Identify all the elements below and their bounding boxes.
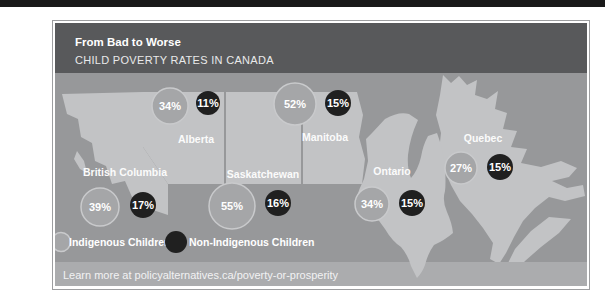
quebec-indigenous-value: 27% bbox=[450, 162, 472, 174]
province-label-british-columbia: British Columbia bbox=[83, 166, 167, 178]
alberta-non-indigenous-value: 11% bbox=[197, 97, 219, 109]
bc-non-indigenous-bubble: 17% bbox=[130, 192, 156, 218]
bc-indigenous-bubble: 39% bbox=[81, 188, 119, 226]
headline: From Bad to Worse bbox=[75, 35, 587, 49]
subtitle: CHILD POVERTY RATES IN CANADA bbox=[75, 54, 587, 67]
legend-non-indigenous-swatch bbox=[165, 231, 187, 253]
manitoba-non-indigenous-bubble: 15% bbox=[325, 90, 351, 116]
quebec-indigenous-bubble: 27% bbox=[445, 152, 477, 184]
manitoba-indigenous-value: 52% bbox=[284, 98, 306, 110]
infographic-card: From Bad to Worse CHILD POVERTY RATES IN… bbox=[52, 20, 590, 290]
province-label-ontario: Ontario bbox=[373, 165, 410, 177]
alberta-indigenous-value: 34% bbox=[159, 100, 181, 112]
manitoba-indigenous-bubble: 52% bbox=[274, 83, 316, 125]
ontario-indigenous-value: 34% bbox=[361, 198, 383, 210]
saskatchewan-indigenous-value: 55% bbox=[221, 200, 243, 212]
footer-link-text: Learn more at policyalternatives.ca/pove… bbox=[63, 269, 339, 281]
quebec-non-indigenous-value: 15% bbox=[489, 161, 511, 173]
canada-map: British Columbia Alberta Saskatchewan Ma… bbox=[55, 73, 587, 286]
province-label-quebec: Quebec bbox=[464, 132, 503, 144]
ontario-indigenous-bubble: 34% bbox=[355, 187, 389, 221]
province-label-manitoba: Manitoba bbox=[302, 131, 348, 143]
quebec-non-indigenous-bubble: 15% bbox=[487, 154, 513, 180]
province-label-alberta: Alberta bbox=[178, 133, 214, 145]
province-label-saskatchewan: Saskatchewan bbox=[227, 168, 299, 180]
legend-indigenous-label: Indigenous Children bbox=[69, 236, 171, 248]
top-black-bar bbox=[0, 0, 605, 7]
saskatchewan-non-indigenous-value: 16% bbox=[267, 197, 289, 209]
ontario-non-indigenous-value: 15% bbox=[401, 197, 423, 209]
saskatchewan-indigenous-bubble: 55% bbox=[209, 183, 255, 229]
ontario-non-indigenous-bubble: 15% bbox=[399, 190, 425, 216]
bc-indigenous-value: 39% bbox=[89, 201, 111, 213]
alberta-indigenous-bubble: 34% bbox=[152, 88, 188, 124]
alberta-non-indigenous-bubble: 11% bbox=[196, 91, 220, 115]
bc-non-indigenous-value: 17% bbox=[132, 199, 154, 211]
legend-non-indigenous-label: Non-Indigenous Children bbox=[189, 236, 314, 248]
header-band: From Bad to Worse CHILD POVERTY RATES IN… bbox=[55, 23, 587, 73]
manitoba-non-indigenous-value: 15% bbox=[327, 97, 349, 109]
saskatchewan-non-indigenous-bubble: 16% bbox=[265, 190, 291, 216]
